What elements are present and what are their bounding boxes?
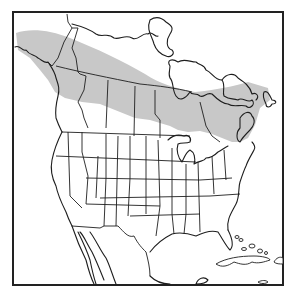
caribbean-islands: [216, 236, 283, 284]
atlantic-coast: [228, 142, 255, 230]
range-map: [0, 0, 293, 297]
arctic-coast: [72, 24, 158, 39]
gulf-coast: [150, 230, 232, 252]
cuba: [216, 256, 270, 266]
us-state-borders: [56, 132, 240, 236]
jamaica: [258, 281, 268, 284]
us-mexico-border: [72, 226, 150, 276]
hispaniola: [274, 257, 283, 264]
arctic-islands: [149, 18, 174, 57]
range-area: [16, 30, 270, 142]
great-lakes: [168, 135, 228, 164]
baja-california: [72, 226, 94, 284]
yucatan: [150, 276, 208, 284]
